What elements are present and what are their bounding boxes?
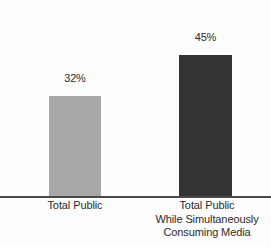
tick-label-total-public-consuming-media: Total Public While Simultaneously Consum… [146,199,268,240]
bar-total-public[interactable] [49,96,101,196]
bar-total-public-consuming-media[interactable] [179,55,232,196]
tick-label-line: While Simultaneously [146,213,268,227]
tick-label-total-public: Total Public [30,199,120,213]
plot-area: 32% 45% [0,0,271,197]
bar-chart: 32% 45% Total Public Total Public While … [0,0,271,247]
x-axis-baseline [0,196,271,198]
tick-label-line: Total Public [30,199,120,213]
tick-label-line: Total Public [146,199,268,213]
bar-value-label: 45% [179,31,232,43]
tick-label-line: Consuming Media [146,226,268,240]
x-axis-tick-labels: Total Public Total Public While Simultan… [0,199,271,247]
bar-value-label: 32% [49,72,101,84]
